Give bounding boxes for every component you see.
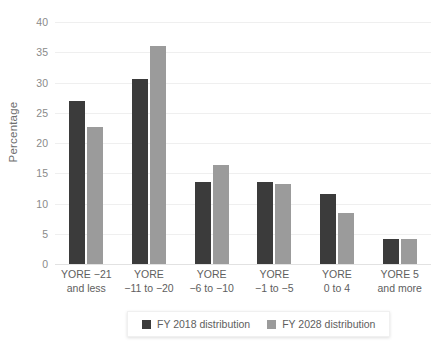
legend-item[interactable]: FY 2018 distribution [142, 318, 250, 330]
y-tick-label: 10 [36, 198, 48, 210]
y-axis-title-text: Percentage [7, 102, 19, 163]
bar-group [180, 22, 243, 264]
x-axis-label-line: YORE [118, 268, 181, 282]
bar [275, 184, 291, 264]
x-axis-label: YORE−1 to −5 [243, 268, 306, 295]
x-axis-labels: YORE −21and lessYORE−11 to −20YORE−6 to … [55, 268, 431, 302]
x-axis-label: YORE −21and less [55, 268, 118, 295]
bar-group [243, 22, 306, 264]
x-axis-label-line: and less [55, 282, 118, 296]
x-axis-label-line: −6 to −10 [180, 282, 243, 296]
bar [213, 165, 229, 264]
bar [401, 239, 417, 264]
plot-area: 0510152025303540 [55, 22, 431, 264]
bar [69, 101, 85, 264]
x-axis-label-line: YORE 5 [368, 268, 431, 282]
x-axis-label: YORE0 to 4 [306, 268, 369, 295]
bar-group [368, 22, 431, 264]
legend-item[interactable]: FY 2028 distribution [267, 318, 375, 330]
bar [132, 79, 148, 264]
y-axis-title: Percentage [2, 0, 24, 264]
bar [257, 182, 273, 264]
y-tick-label: 15 [36, 167, 48, 179]
legend-swatch-icon [267, 320, 276, 329]
bar-group [306, 22, 369, 264]
y-tick-label: 30 [36, 77, 48, 89]
x-axis-label-line: 0 to 4 [306, 282, 369, 296]
legend-label: FY 2018 distribution [157, 318, 250, 330]
bar-chart: Percentage 0510152025303540 YORE −21and … [0, 0, 436, 357]
bar-group [118, 22, 181, 264]
x-axis-label-line: YORE [180, 268, 243, 282]
gridline-0: 0 [55, 264, 431, 265]
x-axis-label: YORE−11 to −20 [118, 268, 181, 295]
bar [383, 239, 399, 264]
x-axis-label-line: YORE −21 [55, 268, 118, 282]
y-tick-label: 40 [36, 16, 48, 28]
y-tick-label: 25 [36, 107, 48, 119]
x-axis-label-line: YORE [306, 268, 369, 282]
bar [320, 194, 336, 264]
x-axis-label-line: −11 to −20 [118, 282, 181, 296]
bar [87, 127, 103, 264]
y-tick-label: 5 [42, 228, 48, 240]
y-tick-label: 20 [36, 137, 48, 149]
legend-label: FY 2028 distribution [282, 318, 375, 330]
x-axis-label: YORE−6 to −10 [180, 268, 243, 295]
bar [195, 182, 211, 264]
y-tick-label: 35 [36, 46, 48, 58]
x-axis-label-line: −1 to −5 [243, 282, 306, 296]
y-tick-label: 0 [42, 258, 48, 270]
bar-group [55, 22, 118, 264]
chart-legend: FY 2018 distributionFY 2028 distribution [127, 311, 390, 337]
bar [338, 213, 354, 264]
legend-swatch-icon [142, 320, 151, 329]
x-axis-label: YORE 5and more [368, 268, 431, 295]
x-axis-label-line: YORE [243, 268, 306, 282]
bar [150, 46, 166, 264]
x-axis-label-line: and more [368, 282, 431, 296]
